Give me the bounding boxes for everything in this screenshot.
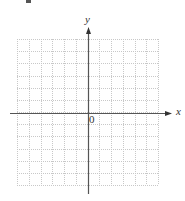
x-axis-label: x (176, 106, 181, 117)
grid-plot (0, 0, 185, 201)
coordinate-plane: y x 0 (0, 0, 185, 201)
y-axis-arrow-icon (86, 27, 91, 34)
cropped-top-mark (26, 0, 31, 3)
origin-label: 0 (89, 114, 95, 125)
cropped-text-fragment (26, 0, 31, 3)
grid-lines (17, 39, 159, 186)
x-axis-arrow-icon (165, 111, 172, 116)
axes (10, 27, 172, 194)
y-axis-label: y (85, 14, 90, 25)
